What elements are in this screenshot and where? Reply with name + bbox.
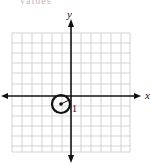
- radius-label: 1: [72, 103, 77, 114]
- y-axis-up-arrow-icon: [68, 19, 74, 27]
- coordinate-plane: y x 1: [0, 0, 150, 166]
- y-axis-down-arrow-icon: [68, 155, 74, 163]
- x-axis-label: x: [144, 89, 150, 101]
- x-axis-right-arrow-icon: [134, 93, 141, 99]
- y-axis-label: y: [66, 8, 72, 20]
- x-axis-left-arrow-icon: [1, 93, 8, 99]
